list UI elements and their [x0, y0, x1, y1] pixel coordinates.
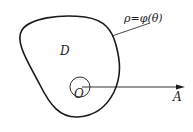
arrow-head-icon: [176, 85, 185, 90]
diagram-canvas: [0, 0, 193, 132]
region-label: D: [60, 45, 70, 57]
origin-label: O: [74, 88, 84, 100]
boundary-curve: [20, 16, 120, 117]
polar-region-diagram: D ρ=φ(θ) O A: [0, 0, 193, 132]
curve-equation-label: ρ=φ(θ): [124, 13, 163, 25]
axis-label: A: [173, 91, 182, 103]
